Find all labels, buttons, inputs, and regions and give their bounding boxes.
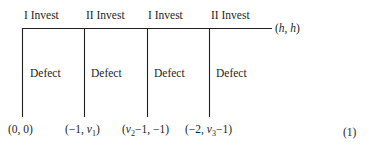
payoff-text: −1, −1) (135, 123, 169, 135)
defect-label-1: Defect (30, 68, 61, 80)
defect-label-3: Defect (154, 68, 185, 80)
defect-label-4: Defect (216, 68, 247, 80)
payoff-2: (−1, v1) (65, 124, 100, 136)
move-label-1: I Invest (24, 10, 59, 22)
payoff-1: (0, 0) (8, 124, 33, 136)
equation-number: (1) (343, 127, 356, 139)
move-label-2: II Invest (86, 10, 125, 22)
payoff-text: −1) (216, 123, 232, 135)
payoff-3: (v2−1, −1) (122, 124, 169, 136)
terminal-payoff: (h, h) (275, 23, 300, 35)
payoff-4: (−2, v3−1) (185, 124, 232, 136)
payoff-text: ) (96, 123, 100, 135)
move-label-4: II Invest (211, 10, 250, 22)
payoff-text: (−2, (185, 123, 207, 135)
move-label-3: I Invest (148, 10, 183, 22)
defect-label-2: Defect (91, 68, 122, 80)
paren: ) (296, 22, 300, 34)
payoff-text: (−1, (65, 123, 87, 135)
